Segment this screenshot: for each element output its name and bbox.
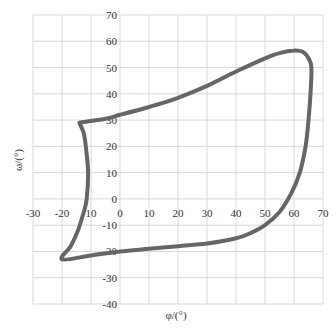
y-tick-label: 70 [106, 9, 118, 21]
y-tick-label: 0 [112, 193, 118, 205]
x-tick-label: 10 [144, 207, 156, 219]
x-tick-label: -20 [55, 207, 70, 219]
chart: -40-30-20-10010203040506070 -30-20100102… [0, 0, 336, 329]
x-tick-label: 30 [202, 207, 214, 219]
x-tick-label: 0 [117, 207, 123, 219]
y-tick-label: -10 [102, 219, 117, 231]
y-tick-label: 40 [106, 88, 118, 100]
y-tick-label: 20 [106, 140, 118, 152]
y-tick-label: 60 [106, 35, 118, 47]
x-axis-label: φ/(°) [165, 309, 186, 322]
data-curve [61, 50, 311, 259]
y-tick-labels: -40-30-20-10010203040506070 [102, 9, 117, 310]
x-tick-label: 40 [231, 207, 243, 219]
x-tick-label: 60 [289, 207, 301, 219]
x-tick-label: 10 [86, 207, 98, 219]
x-tick-label: 50 [260, 207, 272, 219]
y-tick-label: 10 [106, 167, 118, 179]
x-tick-label: 70 [318, 207, 330, 219]
y-tick-label: -40 [102, 298, 117, 310]
x-tick-label: -30 [26, 207, 41, 219]
grid-lines [33, 15, 323, 304]
y-tick-label: -30 [102, 272, 117, 284]
y-tick-label: 50 [106, 62, 118, 74]
x-tick-label: 20 [173, 207, 185, 219]
y-axis-label: ω/(°) [12, 149, 25, 171]
